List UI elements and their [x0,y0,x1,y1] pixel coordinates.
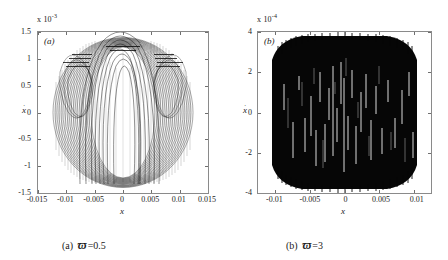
y-tick-mark [38,139,41,140]
x-tick-mark [151,190,152,193]
y-axis-label-dot-b: · [244,102,246,110]
y-tick-mark [258,193,261,194]
caption-b: (b) ϖ=3 [286,238,323,253]
x-tick-mark [208,190,209,193]
y-tick-mark [258,72,261,73]
plot-area-b [257,31,432,194]
chaotic-band-fill-b [272,36,417,189]
y-tick-mark [38,32,41,33]
x-tick-mark [151,32,152,35]
x-tick-mark [66,32,67,35]
y-axis-label-a: ·x [22,105,26,115]
x-tick-mark [379,32,380,35]
y-tick-mark [205,193,208,194]
subplot-label-b: (b) [264,36,275,46]
varpi-symbol-a: ϖ [76,238,88,252]
y-axis-tick-labels-b: 4 2 0 -2 -4 [221,31,255,192]
y-tick-mark [38,113,41,114]
y-tick-mark [205,139,208,140]
varpi-symbol-b: ϖ [300,238,312,252]
y-tick-mark [428,193,431,194]
caption-a: (a) ϖ=0.5 [62,238,106,253]
y-tick-mark [38,59,41,60]
y-tick-mark [258,113,261,114]
subplot-label-a: (a) [44,36,55,46]
x-axis-label-a: x [120,206,124,216]
y-tick-mark [205,32,208,33]
y-axis-multiplier-b: x 10-4 [257,13,277,24]
caption-index-b: (b) [286,240,298,251]
x-axis-label-b: x [341,206,345,216]
y-tick-mark [38,166,41,167]
y-axis-label-dot-a: · [23,102,25,110]
y-axis-multiplier-a: x 10-3 [37,13,57,24]
x-tick-mark [95,32,96,35]
x-tick-mark [379,190,380,193]
y-tick-mark [38,193,41,194]
x-tick-mark [275,32,276,35]
phase-portrait-trace-b [258,32,431,193]
y-tick-mark [258,153,261,154]
y-tick-mark [428,32,431,33]
x-tick-mark [66,190,67,193]
x-tick-mark [95,190,96,193]
y-tick-mark [205,86,208,87]
phase-portrait-trace-a [38,32,208,193]
caption-index-a: (a) [62,240,73,251]
x-tick-mark [123,32,124,35]
y-tick-mark [428,113,431,114]
figure-container: x 10-3 [0,0,448,260]
x-tick-mark [123,190,124,193]
panel-a: x 10-3 [0,0,224,260]
x-tick-mark [310,32,311,35]
x-tick-mark [414,190,415,193]
panel-b: x 10-4 [224,0,448,260]
y-axis-tick-labels-a: 1.5 1 0.5 0 -0.5 -1 -1.5 [0,31,34,192]
x-tick-mark [180,32,181,35]
x-tick-mark [275,190,276,193]
y-tick-mark [38,86,41,87]
plot-area-a [37,31,209,194]
x-tick-mark [345,190,346,193]
x-tick-mark [414,32,415,35]
x-tick-mark [208,32,209,35]
y-tick-mark [428,72,431,73]
y-tick-mark [205,59,208,60]
y-tick-mark [205,113,208,114]
x-tick-mark [180,190,181,193]
y-tick-mark [428,153,431,154]
y-axis-label-b: ·x [243,105,247,115]
y-tick-mark [258,32,261,33]
y-tick-mark [205,166,208,167]
x-tick-mark [310,190,311,193]
x-tick-mark [345,32,346,35]
caption-value-a: =0.5 [88,240,106,251]
caption-value-b: =3 [312,240,323,251]
